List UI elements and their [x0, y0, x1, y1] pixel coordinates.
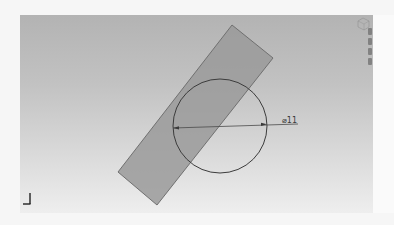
dimension-arrow-right-icon — [261, 123, 267, 126]
view-tool-icon[interactable] — [368, 38, 372, 45]
cad-application: ⌀11 — [0, 0, 394, 225]
diameter-dimension-label[interactable]: ⌀11 — [282, 116, 297, 125]
view-tool-icon[interactable] — [368, 58, 372, 65]
sketch-rectangle[interactable] — [118, 25, 273, 205]
right-panel-edge — [373, 15, 394, 213]
view-tool-icon[interactable] — [368, 28, 372, 35]
graphics-viewport[interactable]: ⌀11 — [20, 15, 373, 213]
axis-triad-icon — [21, 192, 33, 206]
view-tool-icon[interactable] — [368, 48, 372, 55]
sketch-canvas[interactable] — [20, 15, 373, 213]
